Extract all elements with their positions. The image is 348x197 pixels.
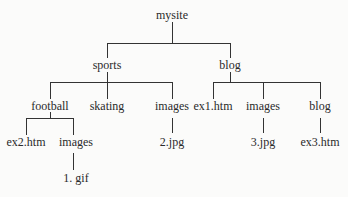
node-ex1: ex1.htm — [194, 100, 233, 112]
node-mysite: mysite — [156, 9, 188, 21]
connector — [213, 82, 321, 83]
node-blog-blog: blog — [309, 100, 330, 112]
connector — [26, 118, 27, 135]
connector — [107, 43, 230, 44]
node-3jpg: 3.jpg — [251, 136, 275, 148]
connector — [172, 82, 173, 99]
connector — [320, 118, 321, 133]
node-blog: blog — [219, 59, 240, 71]
connector — [172, 118, 173, 133]
connector — [73, 153, 74, 170]
connector — [230, 43, 231, 58]
node-skating: skating — [90, 100, 125, 112]
node-1gif: 1. gif — [63, 172, 88, 184]
node-sports: sports — [93, 59, 122, 71]
node-2jpg: 2.jpg — [160, 136, 184, 148]
node-football-images: images — [59, 136, 93, 148]
connector — [172, 22, 173, 44]
connector — [320, 82, 321, 99]
connector — [50, 82, 173, 83]
connector — [263, 82, 264, 99]
connector — [263, 118, 264, 133]
node-ex2: ex2.htm — [7, 136, 46, 148]
site-tree-diagram: mysite sports blog football skating imag… — [0, 0, 348, 197]
connector — [26, 118, 74, 119]
node-football: football — [31, 100, 68, 112]
connector — [107, 82, 108, 99]
node-blog-images: images — [246, 100, 280, 112]
connector — [213, 82, 214, 99]
node-sports-images: images — [155, 100, 189, 112]
connector — [50, 82, 51, 99]
node-ex3: ex3.htm — [301, 136, 340, 148]
connector — [107, 43, 108, 58]
connector — [73, 118, 74, 135]
